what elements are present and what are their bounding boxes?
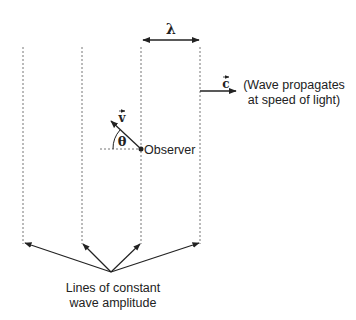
wavelength-label: λ — [166, 21, 176, 37]
pointer-arrow-1 — [25, 243, 111, 272]
wavefront-caption-line1: Lines of constant — [66, 281, 161, 295]
wavefront-pointers — [25, 243, 199, 272]
wavefront-caption-line2: wave amplitude — [69, 296, 157, 310]
observer-label: Observer — [144, 143, 195, 157]
velocity-vector-label: v — [118, 111, 127, 125]
propagation-note-line1: (Wave propagates — [243, 78, 345, 92]
observer-dot — [139, 147, 144, 152]
propagation-note-line2: at speed of light) — [248, 93, 340, 107]
speed-vector-label: c — [222, 77, 229, 91]
angle-label: θ — [118, 134, 127, 149]
pointer-arrow-4 — [111, 243, 199, 272]
wave-observer-diagram: λ c (Wave propagates at speed of light) … — [0, 0, 356, 320]
